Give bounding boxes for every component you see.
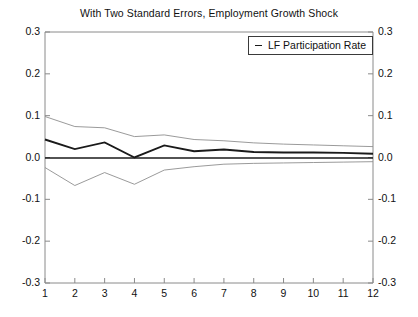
- legend-label-lf-participation-rate: LF Participation Rate: [268, 40, 366, 51]
- x-axis-tick-label: 4: [124, 287, 144, 299]
- y-axis-tick-label: 0.2: [378, 67, 393, 79]
- x-axis-ticks: [45, 278, 373, 283]
- x-axis-tick-label: 6: [184, 287, 204, 299]
- x-axis-tick-label: 2: [65, 287, 85, 299]
- y-axis-tick-label: -0.1: [4, 192, 40, 204]
- x-axis-tick-label: 7: [214, 287, 234, 299]
- y-axis-tick-label: 0.3: [4, 25, 40, 37]
- lower-band-line: [45, 162, 373, 186]
- x-axis-tick-label: 3: [95, 287, 115, 299]
- legend-line-swatch-icon: [255, 45, 262, 46]
- x-axis-tick-label: 9: [274, 287, 294, 299]
- x-axis-tick-label: 1: [35, 287, 55, 299]
- y-axis-tick-label: -0.1: [378, 192, 396, 204]
- x-axis-tick-label: 10: [303, 287, 323, 299]
- x-axis-tick-label: 5: [154, 287, 174, 299]
- upper-band-line: [45, 117, 373, 147]
- chart-container: With Two Standard Errors, Employment Gro…: [0, 0, 418, 317]
- x-axis-tick-label: 11: [333, 287, 353, 299]
- y-axis-tick-label: 0.0: [378, 151, 393, 163]
- x-axis-tick-label: 12: [363, 287, 383, 299]
- y-axis-tick-label: 0.3: [378, 25, 393, 37]
- y-axis-tick-label: 0.2: [4, 67, 40, 79]
- y-axis-tick-label: 0.1: [378, 109, 393, 121]
- y-axis-tick-label: 0.0: [4, 151, 40, 163]
- y-axis-tick-label: -0.2: [4, 234, 40, 246]
- x-axis-tick-label: 8: [244, 287, 264, 299]
- chart-legend[interactable]: LF Participation Rate: [248, 36, 373, 55]
- y-axis-tick-label: 0.1: [4, 109, 40, 121]
- lf-participation-rate-line: [45, 140, 373, 158]
- y-axis-tick-label: -0.2: [378, 234, 396, 246]
